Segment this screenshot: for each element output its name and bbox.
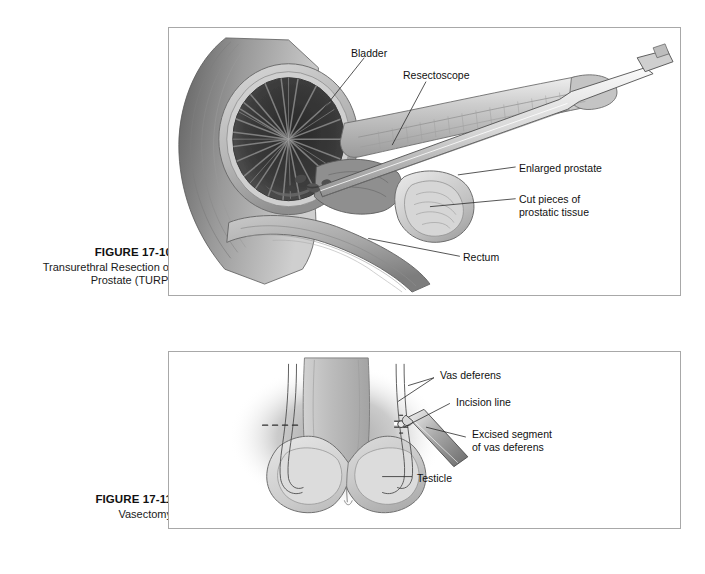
label-bladder: Bladder [351,47,387,60]
penile-shaft-group [340,75,617,158]
vasectomy-illustration [169,352,680,528]
figure-caption-17-10: FIGURE 17-10 Transurethral Resection of … [22,246,172,288]
label-incision-line: Incision line [456,396,511,409]
label-vas-deferens: Vas deferens [440,369,501,382]
figure-caption-17-11: FIGURE 17-11 Vasectomy [22,493,172,521]
figure-frame-turp: Bladder Resectoscope Enlarged prostate C… [168,27,681,296]
label-rectum: Rectum [463,251,499,264]
figure-frame-vasectomy: Vas deferens Incision line Excised segme… [168,351,681,529]
label-cut-pieces-of-prostatic-tissue: Cut pieces of prostatic tissue [519,193,589,218]
figure-title-17-11: Vasectomy [22,508,172,522]
figure-number-17-10: FIGURE 17-10 [22,246,172,260]
figure-title-17-10: Transurethral Resection of Prostate (TUR… [22,261,172,288]
label-excised-segment-of-vas-deferens: Excised segment of vas deferens [472,428,552,453]
figure-number-17-11: FIGURE 17-11 [22,493,172,507]
label-enlarged-prostate: Enlarged prostate [519,162,602,175]
label-resectoscope: Resectoscope [403,69,470,82]
label-testicle: Testicle [417,472,452,485]
